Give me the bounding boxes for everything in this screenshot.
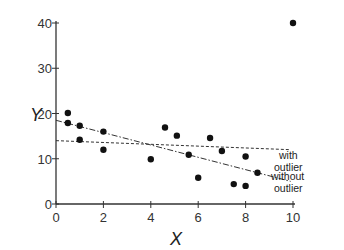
data-point [254, 170, 260, 176]
y-tick-label: 30 [38, 61, 52, 76]
y-tick-label: 10 [38, 152, 52, 167]
x-tick-label: 0 [52, 210, 59, 225]
data-point [148, 156, 154, 162]
data-point [242, 183, 248, 189]
data-point [65, 110, 71, 116]
data-point [195, 175, 201, 181]
x-tick-label: 10 [286, 210, 300, 225]
scatter-chart: 0102030400246810 withoutlierwithoutoutli… [0, 0, 344, 250]
y-axis-label: Y [30, 105, 44, 125]
data-point [77, 137, 83, 143]
data-point [100, 128, 106, 134]
data-point [231, 181, 237, 187]
data-point [242, 153, 248, 159]
data-point [100, 147, 106, 153]
data-point [290, 20, 296, 26]
x-tick-label: 2 [100, 210, 107, 225]
line-annotations: withoutlierwithoutoutlier [270, 149, 304, 194]
regression-line [56, 141, 291, 150]
data-point [65, 120, 71, 126]
x-tick-label: 8 [242, 210, 249, 225]
data-point [77, 123, 83, 129]
x-tick-label: 6 [195, 210, 202, 225]
data-point [186, 151, 192, 157]
annotation-label: withoutoutlier [270, 170, 304, 194]
x-tick-label: 4 [147, 210, 154, 225]
axes: 0102030400246810 [38, 16, 301, 225]
x-axis-label: X [169, 229, 183, 249]
data-point [174, 132, 180, 138]
y-tick-label: 0 [45, 197, 52, 212]
data-point [162, 124, 168, 130]
y-tick-label: 40 [38, 16, 52, 31]
data-point [219, 148, 225, 154]
data-points [65, 20, 297, 189]
data-point [207, 135, 213, 141]
